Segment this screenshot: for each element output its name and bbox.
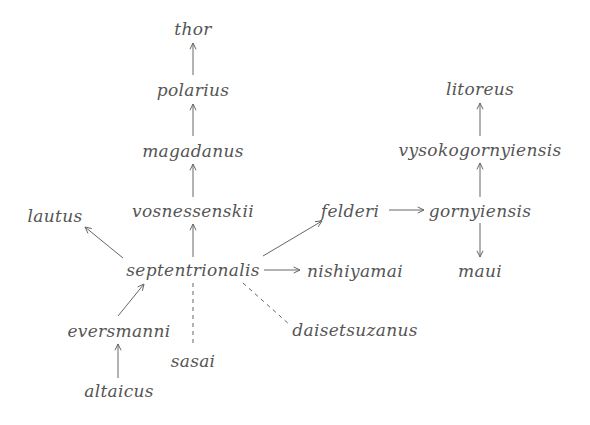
node-thor: thor [174,21,211,38]
edge-septentrionalis-to-felderi [263,221,322,256]
node-polarius: polarius [157,82,229,99]
edge-vysokogornyiensis-to-litoreus [477,103,483,136]
node-gornyiensis: gornyiensis [429,203,531,220]
edge-septentrionalis-to-vosnessenskii [190,224,196,257]
node-sasai: sasai [171,353,216,370]
edge-altaicus-to-eversmanni [115,344,121,378]
node-lautus: lautus [28,208,83,225]
node-eversmanni: eversmanni [67,323,170,340]
edge-vosnessenskii-to-magadanus [190,164,196,197]
node-nishiyamai: nishiyamai [307,263,403,280]
edge-eversmanni-to-septentrionalis [118,284,144,316]
arrowhead-icon [315,221,322,227]
node-litoreus: litoreus [446,81,514,98]
edge-septentrionalis-to-lautus [85,227,123,258]
edge-gornyiensis-to-maui [477,223,483,257]
node-vosnessenskii: vosnessenskii [132,203,254,220]
node-maui: maui [458,263,502,280]
node-magadanus: magadanus [142,143,244,160]
edge-felderi-to-gornyiensis [389,207,424,213]
node-daisetsuzanus: daisetsuzanus [292,322,417,339]
node-felderi: felderi [321,203,379,220]
edge-septentrionalis-to-nishiyamai [264,267,300,273]
edge-septentrionalis-to-daisetsuzanus [243,283,290,325]
edge-gornyiensis-to-vysokogornyiensis [477,163,483,197]
node-altaicus: altaicus [84,383,154,400]
edge-polarius-to-thor [190,43,196,75]
diagram-canvas: thorpolariusmagadanusvosnessenskiilautus… [0,0,590,425]
edge-magadanus-to-polarius [190,104,196,136]
node-septentrionalis: septentrionalis [126,262,259,279]
node-vysokogornyiensis: vysokogornyiensis [399,142,562,159]
